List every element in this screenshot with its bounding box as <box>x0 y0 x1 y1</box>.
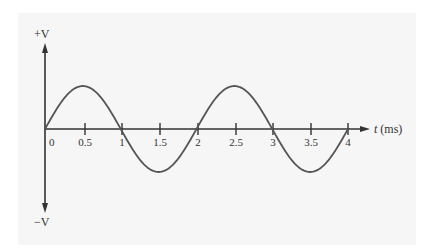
sine-wave-chart: 0 0.5 1 1.5 2 2.5 3 3.5 4 +V −V t (ms) <box>0 0 429 246</box>
y-axis-up-arrow-icon <box>42 43 48 53</box>
tick-label-3: 3 <box>270 136 276 148</box>
x-axis-arrow-icon <box>360 126 370 132</box>
tick-label-2.5: 2.5 <box>229 136 243 148</box>
y-axis-down-arrow-icon <box>42 203 48 213</box>
tick-label-1.5: 1.5 <box>153 136 167 148</box>
tick-label-1: 1 <box>119 136 125 148</box>
y-axis-bottom-label: −V <box>34 215 50 229</box>
tick-label-0.5: 0.5 <box>78 136 92 148</box>
y-axis-top-label: +V <box>34 27 50 41</box>
tick-label-0: 0 <box>49 136 55 148</box>
x-axis-label: t (ms) <box>374 122 402 136</box>
tick-label-3.5: 3.5 <box>304 136 318 148</box>
tick-label-4: 4 <box>345 136 351 148</box>
tick-label-2: 2 <box>195 136 201 148</box>
